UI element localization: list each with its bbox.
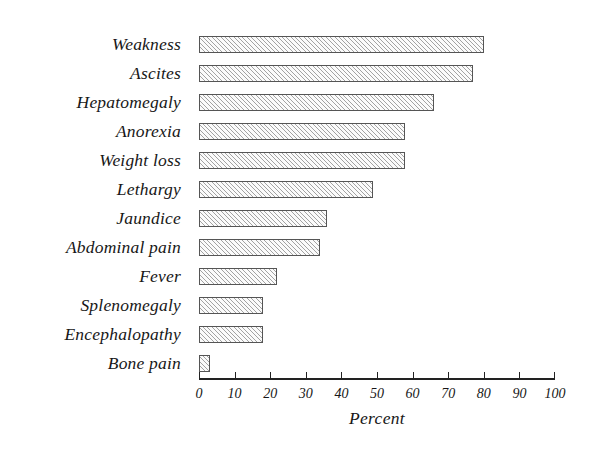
x-axis-tick-label: 90 <box>512 386 526 402</box>
bar <box>199 65 473 82</box>
x-axis-tick-label: 30 <box>299 386 313 402</box>
bar <box>199 326 263 343</box>
x-axis-tick <box>306 372 307 380</box>
bar-row <box>199 233 555 262</box>
category-label: Ascites <box>0 59 190 88</box>
bar <box>199 210 327 227</box>
bar <box>199 268 277 285</box>
x-axis-tick <box>519 372 520 380</box>
category-label: Anorexia <box>0 117 190 146</box>
x-axis-tick-label: 100 <box>545 386 566 402</box>
bar-row <box>199 204 555 233</box>
x-axis-tick <box>413 372 414 380</box>
bar-chart: Weakness Ascites Hepatomegaly Anorexia W… <box>0 0 595 450</box>
bar-row <box>199 88 555 117</box>
category-label: Weakness <box>0 30 190 59</box>
x-axis-tick-label: 50 <box>370 386 384 402</box>
x-axis-tick <box>448 372 449 380</box>
category-label: Hepatomegaly <box>0 88 190 117</box>
x-axis-tick-label: 20 <box>263 386 277 402</box>
bar-row <box>199 146 555 175</box>
bar <box>199 94 434 111</box>
category-label: Lethargy <box>0 175 190 204</box>
x-axis-title: Percent <box>199 408 555 429</box>
plot-area <box>199 30 555 378</box>
x-axis-tick-label: 40 <box>334 386 348 402</box>
bar-row <box>199 320 555 349</box>
bar <box>199 123 405 140</box>
bar <box>199 239 320 256</box>
x-axis-tick <box>484 372 485 380</box>
x-axis-tick-labels: 0102030405060708090100 <box>199 386 555 408</box>
bar-row <box>199 262 555 291</box>
bar-row <box>199 175 555 204</box>
x-axis-tick <box>270 372 271 380</box>
category-axis-labels: Weakness Ascites Hepatomegaly Anorexia W… <box>0 30 190 378</box>
x-axis-tick <box>199 372 200 380</box>
x-axis-tick <box>377 372 378 380</box>
x-axis-tick-label: 70 <box>441 386 455 402</box>
category-label: Encephalopathy <box>0 320 190 349</box>
x-axis-line <box>199 378 555 380</box>
category-label: Jaundice <box>0 204 190 233</box>
bar <box>199 36 484 53</box>
bar-row <box>199 291 555 320</box>
bar-row <box>199 117 555 146</box>
bar-row <box>199 59 555 88</box>
category-label: Weight loss <box>0 146 190 175</box>
bar <box>199 355 210 372</box>
category-label: Abdominal pain <box>0 233 190 262</box>
bar <box>199 152 405 169</box>
x-axis-tick <box>554 372 555 380</box>
x-axis-tick-label: 80 <box>477 386 491 402</box>
bar <box>199 181 373 198</box>
bar-row <box>199 30 555 59</box>
bar <box>199 297 263 314</box>
x-axis-tick <box>341 372 342 380</box>
category-label: Bone pain <box>0 349 190 378</box>
x-axis-tick-label: 10 <box>228 386 242 402</box>
x-axis-tick-label: 60 <box>406 386 420 402</box>
x-axis-tick-label: 0 <box>196 386 203 402</box>
category-label: Splenomegaly <box>0 291 190 320</box>
category-label: Fever <box>0 262 190 291</box>
x-axis-tick <box>235 372 236 380</box>
